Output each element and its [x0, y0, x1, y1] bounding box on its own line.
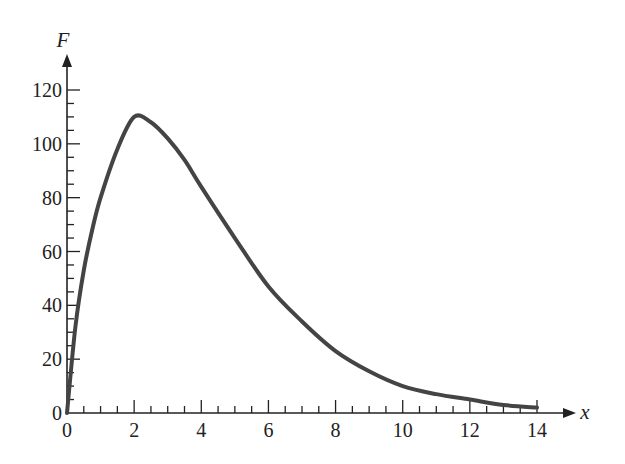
- y-tick-label: 0: [52, 402, 62, 424]
- x-tick-label: 8: [331, 419, 341, 441]
- y-tick-label: 80: [42, 187, 62, 209]
- y-tick-label: 20: [42, 348, 62, 370]
- x-tick-label: 14: [527, 419, 547, 441]
- y-tick-label: 60: [42, 241, 62, 263]
- data-curve: [67, 115, 537, 413]
- x-tick-label: 12: [460, 419, 480, 441]
- y-axis-arrow-icon: [62, 54, 72, 67]
- chart: 02468101214020406080100120 F x: [0, 0, 625, 464]
- x-tick-label: 4: [196, 419, 206, 441]
- x-axis-arrow-icon: [563, 408, 576, 418]
- tick-labels: 02468101214020406080100120: [32, 79, 547, 441]
- y-tick-label: 120: [32, 79, 62, 101]
- x-axis-label: x: [579, 400, 590, 424]
- x-tick-label: 6: [263, 419, 273, 441]
- y-tick-label: 40: [42, 294, 62, 316]
- x-tick-label: 0: [62, 419, 72, 441]
- y-axis-label: F: [56, 28, 70, 52]
- x-tick-label: 10: [393, 419, 413, 441]
- y-tick-label: 100: [32, 133, 62, 155]
- axes: [62, 54, 576, 418]
- x-tick-label: 2: [129, 419, 139, 441]
- ticks: [67, 90, 537, 413]
